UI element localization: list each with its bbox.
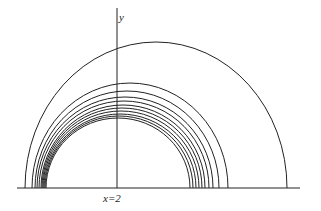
y-axis-label: y bbox=[119, 12, 124, 23]
arc-curve-8 bbox=[44, 114, 196, 188]
arc-curve-0 bbox=[25, 42, 287, 188]
arc-curve-7 bbox=[43, 111, 199, 188]
nested-arcs bbox=[25, 42, 287, 188]
x-equals-2-label: x=2 bbox=[103, 193, 121, 204]
diagram-canvas bbox=[0, 0, 321, 211]
arc-curve-10 bbox=[46, 118, 190, 188]
